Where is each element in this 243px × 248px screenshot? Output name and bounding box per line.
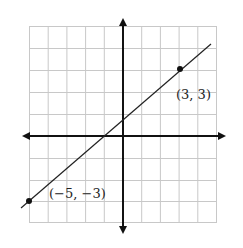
coordinate-plane: (3, 3) (−5, −3) [0,0,243,248]
point-b-marker [177,66,183,72]
point-b-label: (3, 3) [176,87,211,102]
point-a-marker [26,198,32,204]
point-a-label: (−5, −3) [49,186,106,201]
